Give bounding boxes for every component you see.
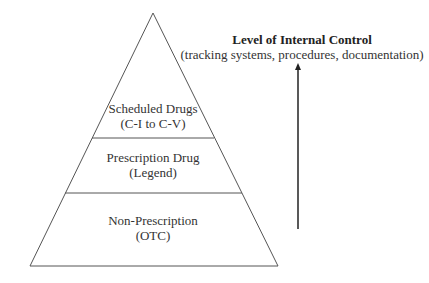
tier-scheduled-sub: (C-I to C-V) xyxy=(93,116,213,131)
tier-otc: Non-Prescription (OTC) xyxy=(83,213,223,243)
control-label: Level of Internal Control (tracking syst… xyxy=(180,32,424,62)
control-title: Level of Internal Control xyxy=(232,32,372,47)
tier-scheduled-name: Scheduled Drugs xyxy=(93,101,213,116)
tier-prescription-name: Prescription Drug xyxy=(83,150,223,165)
tier-prescription-sub: (Legend) xyxy=(83,165,223,180)
tier-otc-name: Non-Prescription xyxy=(83,213,223,228)
tier-scheduled: Scheduled Drugs (C-I to C-V) xyxy=(93,101,213,131)
tier-otc-sub: (OTC) xyxy=(83,228,223,243)
tier-prescription: Prescription Drug (Legend) xyxy=(83,150,223,180)
control-subtitle: (tracking systems, procedures, documenta… xyxy=(180,47,424,62)
control-arrow-head xyxy=(295,63,301,70)
